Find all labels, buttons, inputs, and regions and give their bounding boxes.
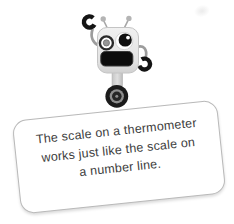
- robot-antenna-right-icon: [124, 16, 132, 29]
- robot-mouth-icon: [101, 52, 133, 67]
- robot-eye-right-icon: [116, 32, 133, 49]
- robot-neck-icon: [112, 70, 122, 87]
- flashcard-canvas: The scale on a thermometer works just li…: [0, 0, 234, 224]
- speech-card: The scale on a thermometer works just li…: [12, 99, 227, 214]
- robot-claw-right-icon: [137, 56, 152, 71]
- robot-body-icon: [98, 28, 139, 74]
- robot-eye-left-icon: [100, 36, 113, 49]
- robot-wheel-icon: [105, 85, 128, 108]
- robot-antenna-left-icon: [101, 16, 108, 29]
- robot-arm-right-icon: [137, 46, 153, 71]
- robot-claw-left-icon: [82, 14, 97, 30]
- corner-smudge: [193, 3, 212, 19]
- robot-arm-left-icon: [82, 14, 99, 45]
